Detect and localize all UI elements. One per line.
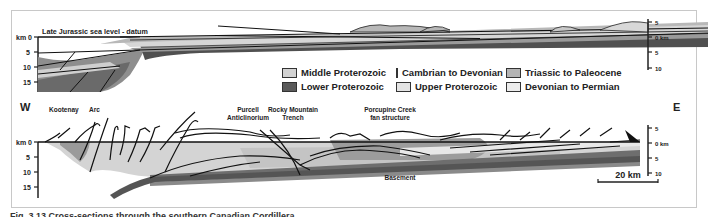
scale-bar-label: 20 km xyxy=(615,170,641,180)
west-label: W xyxy=(20,101,31,113)
lower-right-tick-5b: 5 xyxy=(655,156,659,162)
trench-label: Trench xyxy=(282,114,303,121)
legend-item-upper-proterozoic: Upper Proterozoic xyxy=(396,81,502,92)
legend-label: Upper Proterozoic xyxy=(415,81,497,92)
legend-label: Cambrian to Devonian xyxy=(402,67,503,78)
upper-axis-label-10: 10 xyxy=(23,64,31,71)
legend-label: Middle Proterozoic xyxy=(301,67,386,78)
swatch-cambrian-to-devonian xyxy=(396,68,398,78)
anticlinorium-label: Anticlinorium xyxy=(227,114,269,121)
lower-cross-section: W E Kootenay Arc Purcell Anticlinorium R… xyxy=(16,101,680,199)
upper-right-tick-0km: 0 km xyxy=(655,35,669,41)
figure-caption: Fig. 3.13 Cross-sections through the sou… xyxy=(10,211,295,217)
upper-right-tick-5b: 5 xyxy=(655,50,659,56)
upper-axis-label-15: 15 xyxy=(23,79,31,86)
east-label: E xyxy=(673,101,680,113)
rocky-mountain-label: Rocky Mountain xyxy=(268,106,318,114)
legend-label: Triassic to Paleocene xyxy=(525,67,622,78)
upper-axis-label-5: 5 xyxy=(26,49,30,56)
legend-item-middle-proterozoic: Middle Proterozoic xyxy=(282,67,392,78)
legend-item-devonian-to-permian: Devonian to Permian xyxy=(506,81,646,92)
legend-label: Devonian to Permian xyxy=(525,81,620,92)
fan-structure-label: fan structure xyxy=(370,114,410,121)
kootenay-label: Kootenay xyxy=(49,106,79,114)
purcell-label: Purcell xyxy=(237,106,259,113)
lower-right-tick-0km: 0 km xyxy=(655,141,669,147)
swatch-middle-proterozoic xyxy=(282,68,297,78)
arc-label: Arc xyxy=(89,106,100,113)
swatch-triassic-to-paleocene xyxy=(506,68,521,78)
upper-right-tick-10: 10 xyxy=(655,66,662,72)
swatch-lower-proterozoic xyxy=(282,82,297,92)
swatch-devonian-to-permian xyxy=(506,82,521,92)
porcupine-creek-label: Porcupine Creek xyxy=(364,106,416,114)
lower-right-tick-5: 5 xyxy=(655,126,659,132)
lower-axis-label-0: km 0 xyxy=(16,139,32,146)
legend-item-cambrian-to-devonian: Cambrian to Devonian xyxy=(396,67,502,78)
legend-item-lower-proterozoic: Lower Proterozoic xyxy=(282,81,392,92)
legend-item-triassic-to-paleocene: Triassic to Paleocene xyxy=(506,67,646,78)
upper-axis-label-0: km 0 xyxy=(16,34,32,41)
lower-axis-label-15: 15 xyxy=(23,184,31,191)
lower-axis-label-5: 5 xyxy=(26,154,30,161)
legend: Middle Proterozoic Cambrian to Devonian … xyxy=(282,67,646,92)
swatch-upper-proterozoic xyxy=(396,82,411,92)
scale-bar: 20 km xyxy=(598,170,658,183)
basement-label: Basement xyxy=(384,174,416,181)
lower-right-tick-10: 10 xyxy=(655,171,662,177)
legend-label: Lower Proterozoic xyxy=(301,81,384,92)
datum-label: Late Jurassic sea level - datum xyxy=(42,27,148,36)
cross-section-diagram: km 0 5 10 15 Late Jurassic sea level - d… xyxy=(0,0,708,217)
lower-axis-label-10: 10 xyxy=(23,169,31,176)
